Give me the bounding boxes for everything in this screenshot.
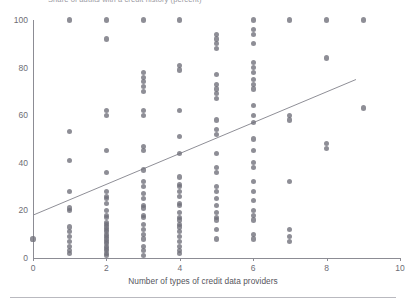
- scatter-point: [214, 189, 219, 194]
- scatter-point: [251, 113, 256, 118]
- y-tick-label: 0: [23, 253, 28, 263]
- x-tick-label: 0: [31, 263, 36, 273]
- scatter-point: [251, 236, 256, 241]
- scatter-point: [104, 36, 109, 41]
- x-tick-label: 2: [104, 263, 109, 273]
- x-tick-mark: [400, 258, 401, 261]
- trend-line: [33, 20, 400, 259]
- scatter-point: [251, 165, 256, 170]
- scatter-point: [251, 120, 256, 125]
- scatter-point: [67, 17, 72, 22]
- scatter-point: [141, 205, 146, 210]
- scatter-point: [251, 32, 256, 37]
- scatter-point: [324, 17, 329, 22]
- scatter-point: [141, 113, 146, 118]
- scatter-point: [251, 103, 256, 108]
- scatter-point: [104, 170, 109, 175]
- clipped-title-strip: Share of adults with a credit history (p…: [0, 0, 406, 8]
- scatter-point: [324, 55, 329, 60]
- scatter-point: [141, 184, 146, 189]
- scatter-point: [251, 189, 256, 194]
- y-tick-label: 80: [19, 63, 28, 73]
- y-tick-label: 100: [14, 15, 28, 25]
- footer-divider: [10, 297, 396, 298]
- scatter-point: [361, 17, 366, 22]
- y-tick-label: 40: [19, 158, 28, 168]
- scatter-point: [30, 236, 35, 241]
- scatter-point: [141, 89, 146, 94]
- scatter-point: [251, 86, 256, 91]
- x-tick-label: 10: [395, 263, 404, 273]
- x-tick-label: 8: [324, 263, 329, 273]
- x-axis-title: Number of types of credit data providers: [0, 276, 406, 286]
- scatter-point: [214, 236, 219, 241]
- scatter-point: [251, 217, 256, 222]
- scatter-point: [361, 105, 366, 110]
- scatter-point: [141, 253, 146, 258]
- scatter-point: [214, 217, 219, 222]
- chart-figure: Share of adults with a credit history (p…: [0, 0, 406, 303]
- scatter-point: [214, 151, 219, 156]
- x-tick-label: 4: [177, 263, 182, 273]
- scatter-point: [251, 17, 256, 22]
- chart-title: Share of adults with a credit history (p…: [48, 0, 202, 4]
- scatter-point: [214, 132, 219, 137]
- scatter-point: [141, 236, 146, 241]
- y-tick-label: 20: [19, 205, 28, 215]
- scatter-point: [251, 70, 256, 75]
- x-tick-label: 6: [251, 263, 256, 273]
- y-tick-label: 60: [19, 110, 28, 120]
- scatter-point: [214, 170, 219, 175]
- scatter-point: [141, 196, 146, 201]
- scatter-point: [251, 136, 256, 141]
- scatter-point: [214, 117, 219, 122]
- scatter-point: [104, 201, 109, 206]
- scatter-point: [141, 17, 146, 22]
- plot-area: 020406080100 0246810: [33, 20, 400, 258]
- scatter-point: [104, 113, 109, 118]
- scatter-point: [177, 67, 182, 72]
- scatter-point: [177, 17, 182, 22]
- scatter-point: [104, 17, 109, 22]
- scatter-point: [141, 215, 146, 220]
- scatter-point: [141, 167, 146, 172]
